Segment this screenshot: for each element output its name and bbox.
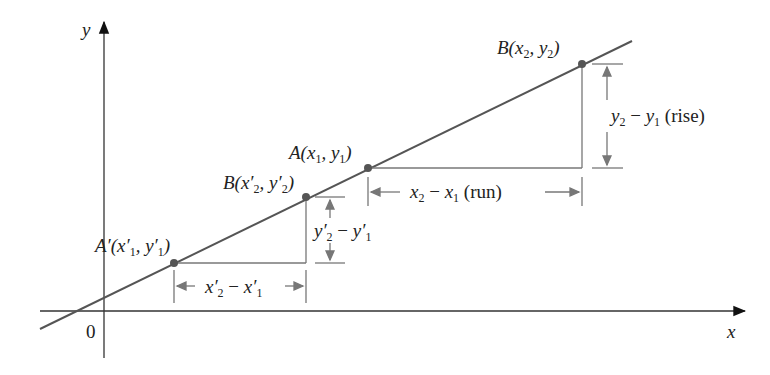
point-a <box>364 164 372 172</box>
point-b-label: B(x2, y2) <box>497 38 560 60</box>
point-a-prime <box>170 259 178 267</box>
x-axis-label: x <box>727 322 735 341</box>
origin-label: 0 <box>86 322 96 341</box>
point-b <box>578 60 586 68</box>
rise-prime-label: y′2 − y′1 <box>312 221 373 243</box>
point-b-prime-label: B(x′2, y′2) <box>223 173 294 195</box>
point-a-label: A(x1, y1) <box>289 143 352 165</box>
diagram-canvas <box>0 0 770 375</box>
rise-label: y2 − y1 (rise) <box>609 106 707 128</box>
point-a-prime-label: A′(x′1, y′1) <box>95 236 170 258</box>
point-b-prime <box>302 193 310 201</box>
sloped-line <box>40 41 632 329</box>
run-label: x2 − x1 (run) <box>410 182 502 204</box>
run-prime-label: x′2 − x′1 <box>205 277 262 299</box>
y-axis-label: y <box>82 20 90 39</box>
